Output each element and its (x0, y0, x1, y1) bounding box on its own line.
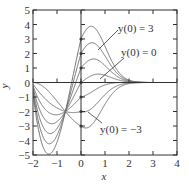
x-tick-label: −1 (51, 157, 63, 169)
x-tick-label: 3 (150, 157, 156, 169)
y-tick-label: −3 (18, 120, 30, 132)
y-tick-label: 2 (25, 48, 31, 60)
y-tick-label: 5 (25, 4, 31, 16)
curve-annotation: y(0) = 3 (118, 22, 154, 35)
y-axis-label: y (0, 83, 10, 89)
curve-annotation: y(0) = −3 (100, 123, 142, 136)
x-tick-label: 4 (174, 157, 180, 169)
x-tick-label: 0 (78, 157, 84, 169)
curve-annotation: y(0) = 0 (121, 46, 157, 59)
y-tick-label: 1 (25, 62, 31, 74)
y-tick-label: −5 (18, 149, 30, 161)
x-tick-label: 2 (126, 157, 132, 169)
y-tick-label: 4 (25, 19, 31, 31)
y-tick-label: −4 (18, 135, 30, 147)
x-axis-label: x (101, 170, 107, 182)
x-tick-label: 1 (102, 157, 108, 169)
y-tick-label: 3 (25, 33, 31, 45)
solution-curve (33, 82, 177, 128)
y-tick-label: −1 (18, 91, 30, 103)
solution-curves-chart: −2−101234−5−4−3−2−1012345 y(0) = 3y(0) =… (0, 0, 189, 185)
y-tick-label: −2 (18, 106, 30, 118)
y-tick-label: 0 (25, 77, 31, 89)
